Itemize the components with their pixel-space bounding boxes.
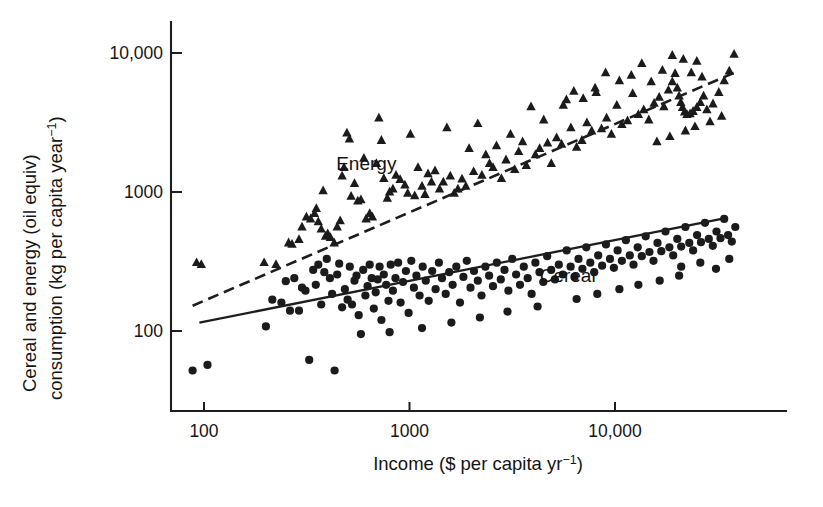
data-point-triangle <box>469 166 478 175</box>
data-point-circle <box>685 239 693 247</box>
svg-text:Cereal and energy (oil equiv): Cereal and energy (oil equiv) <box>19 154 40 392</box>
data-point-triangle <box>612 100 621 109</box>
figure-scatter-income-consumption: Cereal and energy (oil equiv) consumptio… <box>0 0 823 507</box>
data-point-circle <box>524 274 532 282</box>
data-point-circle <box>387 261 395 269</box>
data-point-circle <box>323 255 331 263</box>
data-point-triangle <box>312 203 321 212</box>
data-point-triangle <box>413 162 422 171</box>
data-point-triangle <box>506 129 515 138</box>
data-point-triangle <box>658 65 667 74</box>
data-point-circle <box>531 259 539 267</box>
data-point-circle <box>593 290 601 298</box>
data-point-circle <box>456 299 464 307</box>
data-point-circle <box>326 274 334 282</box>
data-point-circle <box>716 234 724 242</box>
data-point-triangle <box>627 70 636 79</box>
data-point-circle <box>656 277 664 285</box>
data-point-circle <box>416 291 424 299</box>
data-point-triangle <box>681 126 690 135</box>
data-point-triangle <box>717 111 726 120</box>
data-point-circle <box>598 262 606 270</box>
data-point-circle <box>693 231 701 239</box>
data-point-triangle <box>644 115 653 124</box>
data-point-triangle <box>602 113 611 122</box>
data-point-circle <box>402 267 410 275</box>
data-point-triangle <box>535 143 544 152</box>
data-point-triangle <box>655 92 664 101</box>
data-point-circle <box>669 251 677 259</box>
data-point-circle <box>657 247 665 255</box>
data-point-circle <box>346 263 354 271</box>
data-point-circle <box>673 235 681 243</box>
data-point-triangle <box>652 136 661 145</box>
data-point-circle <box>731 223 739 231</box>
data-point-triangle <box>442 122 451 131</box>
y-tick-label: 10,000 <box>109 43 163 63</box>
data-point-triangle <box>420 189 429 198</box>
data-point-circle <box>528 290 536 298</box>
data-point-triangle <box>446 171 455 180</box>
data-point-triangle <box>473 118 482 127</box>
data-point-circle <box>629 261 637 269</box>
data-point-circle <box>366 261 374 269</box>
data-point-circle <box>405 309 413 317</box>
data-point-circle <box>614 246 622 254</box>
data-point-triangle <box>708 99 717 108</box>
data-point-circle <box>352 272 360 280</box>
data-point-triangle <box>374 113 383 122</box>
data-series-layer <box>189 49 740 375</box>
data-point-triangle <box>607 129 616 138</box>
data-point-circle <box>594 251 602 259</box>
trendlines-layer <box>193 73 735 323</box>
data-point-circle <box>268 296 276 304</box>
data-point-circle <box>389 287 397 295</box>
data-point-circle <box>333 270 341 278</box>
data-point-circle <box>618 257 626 265</box>
data-point-triangle <box>464 143 473 152</box>
data-point-circle <box>677 243 685 251</box>
data-point-circle <box>335 260 343 268</box>
data-point-circle <box>728 238 736 246</box>
data-point-circle <box>435 259 443 267</box>
data-point-triangle <box>318 186 327 195</box>
data-point-circle <box>503 308 511 316</box>
data-point-circle <box>203 361 211 369</box>
data-point-triangle <box>477 170 486 179</box>
series-energy <box>192 49 739 268</box>
data-point-circle <box>697 238 705 246</box>
x-axis-title-tail: ) <box>577 453 583 474</box>
data-point-triangle <box>699 91 708 100</box>
data-point-circle <box>407 257 415 265</box>
data-point-circle <box>442 290 450 298</box>
data-point-circle <box>463 257 471 265</box>
data-point-triangle <box>430 166 439 175</box>
data-point-circle <box>725 255 733 263</box>
trendline-cereal <box>199 219 721 323</box>
data-point-circle <box>638 252 646 260</box>
y-axis-title-line1: Cereal and energy (oil equiv) <box>19 154 40 392</box>
data-point-circle <box>295 307 303 315</box>
data-point-circle <box>391 274 399 282</box>
data-point-triangle <box>417 181 426 190</box>
data-point-circle <box>361 291 369 299</box>
data-point-triangle <box>457 174 466 183</box>
data-point-triangle <box>692 56 701 65</box>
data-point-triangle <box>526 102 535 111</box>
data-point-triangle <box>714 87 723 96</box>
data-point-triangle <box>601 68 610 77</box>
data-point-triangle <box>665 131 674 140</box>
data-point-triangle <box>697 72 706 81</box>
data-point-triangle <box>628 88 637 97</box>
data-point-triangle <box>539 115 548 124</box>
data-point-circle <box>384 297 392 305</box>
data-point-triangle <box>690 121 699 130</box>
data-point-circle <box>447 319 455 327</box>
axis-spines <box>171 22 786 411</box>
data-point-triangle <box>547 158 556 167</box>
data-point-circle <box>397 299 405 307</box>
data-point-circle <box>504 287 512 295</box>
x-axis-title: Income ($ per capita yr−1) <box>373 453 583 474</box>
data-point-triangle <box>687 68 696 77</box>
data-point-triangle <box>297 222 306 231</box>
